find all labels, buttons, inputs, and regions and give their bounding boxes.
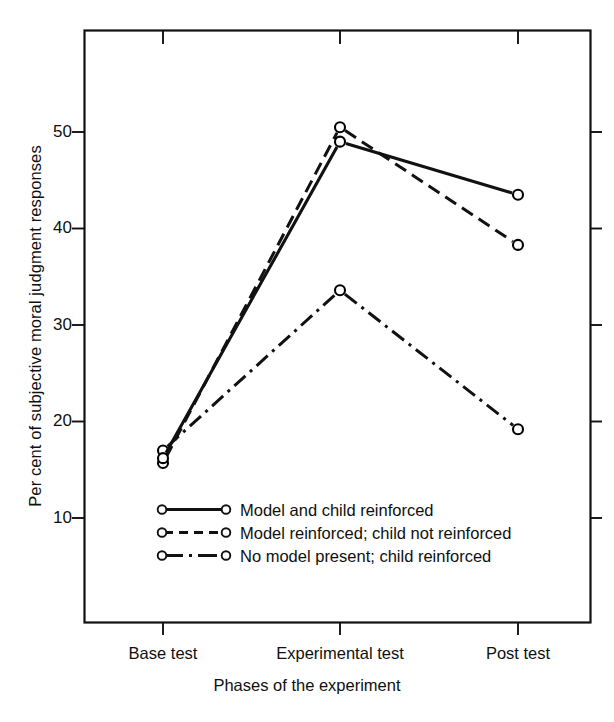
x-tick-label-1: Experimental test (276, 645, 403, 662)
legend-key-dashdot (156, 544, 232, 567)
top-tick-marks (163, 31, 518, 44)
legend-item-0: Model and child reinforced (156, 498, 556, 521)
x-axis-title: Phases of the experiment (0, 676, 614, 694)
data-point-marker (335, 137, 345, 147)
legend-label-0: Model and child reinforced (232, 500, 434, 520)
series-line-solid (166, 143, 512, 452)
legend-label-2: No model present; child reinforced (232, 546, 491, 566)
legend-key-dashed (156, 521, 232, 544)
series-markers-solid (158, 137, 523, 464)
legend-label-1: Model reinforced; child not reinforced (232, 523, 511, 543)
data-point-marker (335, 122, 345, 132)
right-tick-marks (590, 132, 602, 518)
chart-legend: Model and child reinforced Model reinfor… (156, 498, 556, 567)
data-point-marker (513, 240, 523, 250)
data-point-marker (513, 190, 523, 200)
legend-item-2: No model present; child reinforced (156, 544, 556, 567)
data-point-marker (158, 453, 168, 463)
series-model-and-child-reinforced (158, 137, 523, 464)
data-point-marker (335, 285, 345, 295)
series-line-dashdot (168, 294, 514, 446)
left-tick-marks (72, 132, 84, 518)
legend-item-1: Model reinforced; child not reinforced (156, 521, 556, 544)
x-tick-label-0: Base test (129, 645, 198, 662)
plot-area (0, 0, 614, 722)
bottom-tick-marks (163, 622, 518, 635)
x-tick-label-2: Post test (486, 645, 550, 662)
legend-key-solid (156, 498, 232, 521)
data-point-marker (513, 424, 523, 434)
chart-figure: Per cent of subjective moral judgment re… (0, 0, 614, 722)
